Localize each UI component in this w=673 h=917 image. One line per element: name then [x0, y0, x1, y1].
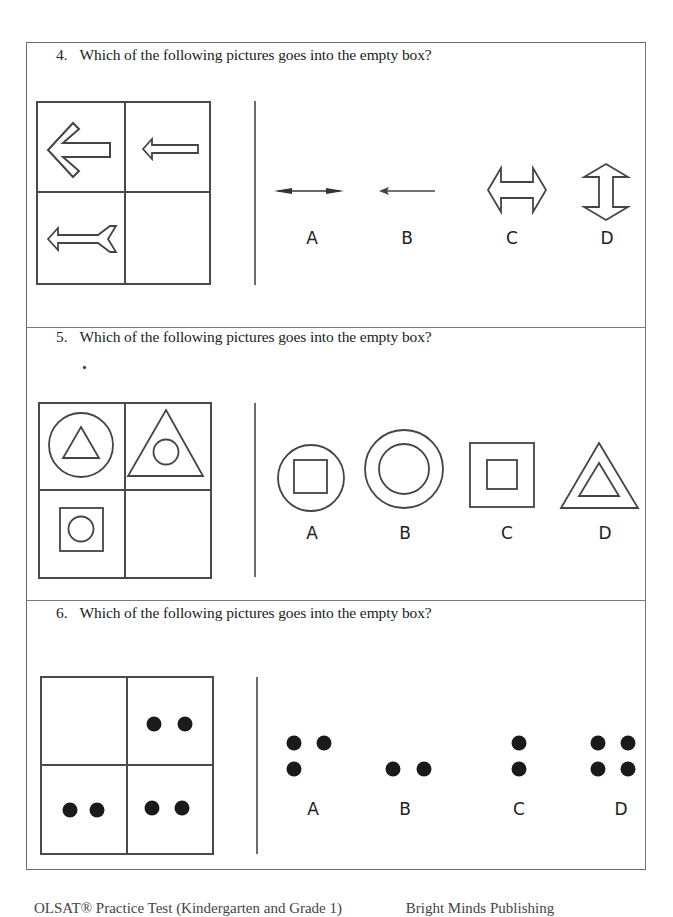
option-a-three-dots-icon[interactable]	[286, 735, 332, 777]
question-5-prompt: 5. Which of the following pictures goes …	[56, 328, 432, 346]
small-left-arrow-icon	[142, 137, 200, 161]
option-a-label[interactable]: A	[297, 228, 327, 248]
grid-line	[124, 103, 126, 283]
question-6-prompt: 6. Which of the following pictures goes …	[56, 604, 432, 622]
option-c-label[interactable]: C	[492, 523, 522, 543]
grid-line	[42, 764, 212, 766]
footer-publisher: Bright Minds Publishing	[406, 900, 554, 916]
option-c-label[interactable]: C	[504, 799, 534, 819]
two-dots-icon	[146, 716, 196, 732]
page-footer: OLSAT® Practice Test (Kindergarten and G…	[34, 900, 554, 917]
question-number: 5.	[56, 328, 76, 346]
option-b-label[interactable]: B	[392, 228, 422, 248]
question-text: Which of the following pictures goes int…	[80, 604, 432, 621]
option-a-circle-with-square-icon[interactable]	[276, 443, 346, 513]
question-6-matrix	[40, 676, 214, 855]
option-c-square-with-square-icon[interactable]	[469, 442, 535, 508]
options-separator	[254, 101, 256, 285]
options-separator	[256, 677, 258, 854]
option-c-two-dots-vertical-icon[interactable]	[511, 735, 527, 777]
options-separator	[254, 403, 256, 577]
option-c-outlined-horizontal-double-arrow-icon[interactable]	[487, 166, 547, 214]
option-b-circle-with-circle-icon[interactable]	[363, 428, 445, 510]
question-number: 4.	[56, 46, 76, 64]
large-left-arrow-icon	[46, 121, 116, 179]
footer-title: OLSAT® Practice Test (Kindergarten and G…	[34, 900, 342, 916]
option-b-label[interactable]: B	[390, 799, 420, 819]
option-b-left-arrow-icon[interactable]	[379, 186, 435, 196]
question-text: Which of the following pictures goes int…	[80, 328, 432, 345]
option-d-triangle-with-triangle-icon[interactable]	[560, 441, 640, 509]
two-dots-icon	[144, 800, 194, 816]
option-a-double-arrow-icon[interactable]	[274, 185, 344, 197]
circle-with-triangle-icon	[47, 411, 115, 479]
option-d-label[interactable]: D	[606, 799, 636, 819]
square-with-circle-icon	[59, 507, 104, 552]
option-d-four-dots-icon[interactable]	[590, 735, 636, 777]
option-d-outlined-vertical-double-arrow-icon[interactable]	[583, 163, 629, 221]
question-text: Which of the following pictures goes int…	[80, 46, 432, 63]
grid-line	[38, 191, 209, 193]
option-b-two-dots-horizontal-icon[interactable]	[385, 761, 431, 777]
triangle-with-circle-icon	[126, 408, 206, 478]
option-a-label[interactable]: A	[298, 799, 328, 819]
two-dots-icon	[62, 802, 112, 818]
question-4-prompt: 4. Which of the following pictures goes …	[56, 46, 432, 64]
question-number: 6.	[56, 604, 76, 622]
question-divider	[27, 600, 645, 601]
question-5-matrix	[38, 402, 212, 579]
option-d-label[interactable]: D	[590, 523, 620, 543]
option-b-label[interactable]: B	[390, 523, 420, 543]
grid-line	[40, 489, 210, 491]
option-d-label[interactable]: D	[592, 228, 622, 248]
fletched-left-arrow-icon	[46, 225, 120, 253]
option-c-label[interactable]: C	[497, 228, 527, 248]
option-a-label[interactable]: A	[297, 523, 327, 543]
question-4-matrix	[36, 101, 211, 285]
